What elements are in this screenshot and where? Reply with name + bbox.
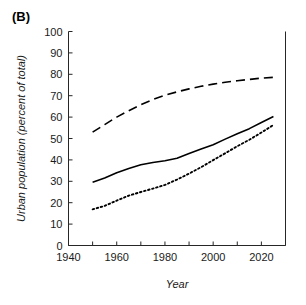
y-tick-label: 60: [50, 111, 62, 123]
y-tick-label: 90: [50, 47, 62, 59]
x-tick-label: 1980: [153, 251, 177, 263]
line-chart: 0102030405060708090100 19401960198020002…: [0, 0, 306, 305]
y-tick-label: 70: [50, 90, 62, 102]
y-tick-label: 100: [44, 26, 62, 38]
y-tick-label: 50: [50, 133, 62, 145]
x-tick-label: 1940: [56, 251, 80, 263]
y-axis-title: Urban population (percent of total): [15, 55, 27, 222]
x-tick-label: 2000: [201, 251, 225, 263]
y-tick-label: 10: [50, 218, 62, 230]
y-tick-label: 20: [50, 197, 62, 209]
x-axis-title: Year: [166, 278, 190, 290]
y-tick-label: 80: [50, 68, 62, 80]
y-tick-label: 40: [50, 154, 62, 166]
figure-panel: (B) 0102030405060708090100 1940196019802…: [0, 0, 306, 305]
y-tick-label: 30: [50, 175, 62, 187]
x-tick-label: 2020: [249, 251, 273, 263]
x-tick-label: 1960: [104, 251, 128, 263]
